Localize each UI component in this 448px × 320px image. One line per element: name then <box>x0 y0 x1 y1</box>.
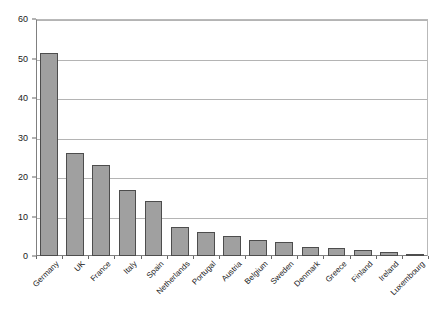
x-axis-label: Germany <box>32 260 61 289</box>
x-axis-label: Denmark <box>293 260 322 289</box>
bar-chart: 0102030405060 GermanyUKFranceItalySpainN… <box>0 0 448 320</box>
x-axis-label: Finland <box>350 260 374 284</box>
x-tick-mark <box>141 256 142 259</box>
x-axis-label: Austria <box>220 260 243 283</box>
x-tick-mark <box>36 256 37 259</box>
x-axis-label: Greece <box>324 260 348 284</box>
y-tick-label: 10 <box>18 212 28 221</box>
bar <box>119 190 137 256</box>
x-axis-labels: GermanyUKFranceItalySpainNetherlandsPort… <box>36 260 448 320</box>
bar <box>275 242 293 256</box>
y-tick-label: 50 <box>18 54 28 63</box>
bar <box>171 227 189 256</box>
x-tick-mark <box>350 256 351 259</box>
x-tick-mark <box>114 256 115 259</box>
x-axis-label: UK <box>73 260 87 274</box>
bar <box>249 240 267 256</box>
x-axis-label: Ireland <box>377 260 400 283</box>
bar <box>197 232 215 256</box>
x-tick-mark <box>271 256 272 259</box>
bar <box>92 165 110 256</box>
bars-group <box>36 19 428 256</box>
y-tick-label: 60 <box>18 15 28 24</box>
y-tick-label: 30 <box>18 133 28 142</box>
y-tick-label: 20 <box>18 173 28 182</box>
y-tick-label: 0 <box>23 252 28 261</box>
x-tick-mark <box>193 256 194 259</box>
x-tick-mark <box>167 256 168 259</box>
x-axis-label: Belgium <box>244 260 270 286</box>
y-tick-label: 40 <box>18 94 28 103</box>
bar <box>145 201 163 256</box>
x-tick-mark <box>88 256 89 259</box>
bar <box>40 53 58 256</box>
x-tick-mark <box>402 256 403 259</box>
bar <box>328 248 346 256</box>
x-tick-mark <box>62 256 63 259</box>
x-axis-label: Spain <box>145 260 165 280</box>
bar <box>223 236 241 256</box>
bar <box>302 247 320 256</box>
x-tick-mark <box>245 256 246 259</box>
x-tick-mark <box>376 256 377 259</box>
x-tick-mark <box>428 256 429 259</box>
x-tick-mark <box>297 256 298 259</box>
bar <box>66 153 84 256</box>
x-axis-label: France <box>90 260 113 283</box>
x-axis-label: Portugal <box>191 260 218 287</box>
x-axis-label: Italy <box>123 260 139 276</box>
x-tick-mark <box>323 256 324 259</box>
y-axis: 0102030405060 <box>0 0 36 320</box>
x-tick-mark <box>219 256 220 259</box>
